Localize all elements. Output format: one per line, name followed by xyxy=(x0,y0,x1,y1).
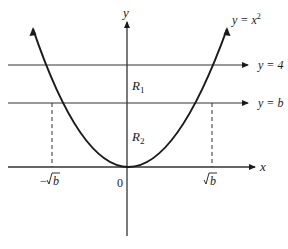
svg-text:b: b xyxy=(53,174,59,188)
region-label-r1: R1 xyxy=(131,78,144,95)
tick-label-neg-sqrt-b: − b xyxy=(40,173,60,188)
label-y-equals-b: y = b xyxy=(257,96,283,110)
curve-arrow-right-icon xyxy=(224,27,231,36)
curve-equation-label: y = x2 xyxy=(231,12,261,27)
x-axis-label: x xyxy=(259,159,266,174)
svg-text:−: − xyxy=(40,174,47,188)
parabola-region-diagram: y x 0 y = x2 y = 4 y = b R1 R2 − b b xyxy=(0,0,288,249)
y-axis-label: y xyxy=(121,5,129,20)
tick-label-pos-sqrt-b: b xyxy=(204,173,217,188)
curve-arrow-left-icon xyxy=(30,27,37,36)
svg-text:b: b xyxy=(210,174,216,188)
parabola-curve xyxy=(33,29,227,167)
region-label-r2: R2 xyxy=(131,129,144,146)
origin-label: 0 xyxy=(117,176,123,190)
label-y-equals-4: y = 4 xyxy=(257,58,283,72)
